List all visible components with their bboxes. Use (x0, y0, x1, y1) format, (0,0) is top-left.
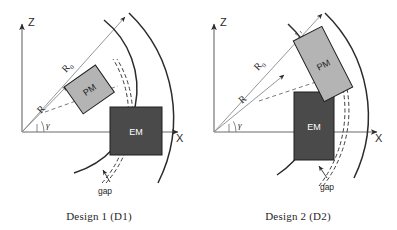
x-axis-label: X (176, 132, 184, 144)
pm-block-d1: PM (64, 65, 114, 114)
radius-label-outer-d1: R0 (59, 60, 75, 76)
em-block-d1: EM (110, 107, 162, 155)
inner-radius-base: R (236, 93, 248, 106)
gamma-angle-arc (42, 122, 45, 133)
gamma-angle-label: γ (238, 120, 242, 130)
gamma-angle-label: γ (46, 120, 50, 130)
gap-callout-d1: gap (98, 170, 112, 196)
figure-container: Z X γ R0 R (0, 0, 397, 230)
radius-label-outer-d2: R0 (251, 58, 267, 74)
inner-radius-ray (214, 75, 284, 132)
gap-leader-line (319, 166, 327, 178)
svg-text:R: R (35, 103, 48, 116)
em-block-d2: EM (294, 92, 334, 160)
svg-text:R0: R0 (251, 58, 267, 74)
inner-radius-base: R (35, 103, 48, 116)
caption-design-1: Design 1 (D1) (0, 210, 198, 222)
panel-design-1: Z X γ R0 R (0, 0, 198, 230)
outer-arc (129, 13, 174, 183)
gamma-angle-arc (234, 122, 237, 133)
svg-text:R: R (236, 93, 248, 106)
gap-label: gap (320, 182, 334, 192)
radius-label-inner-d1: R (35, 103, 48, 116)
z-axis-label: Z (28, 16, 35, 28)
z-axis-label: Z (220, 16, 227, 28)
x-axis-label: X (375, 132, 383, 144)
svg-text:R0: R0 (59, 60, 75, 76)
radius-label-inner-d2: R (236, 93, 248, 106)
gap-label: gap (98, 186, 112, 196)
pm-block-d2: PM (293, 26, 352, 101)
gap-callout-d2: gap (319, 166, 334, 192)
panel-design-2: Z X γ R0 R (199, 0, 397, 230)
caption-design-2: Design 2 (D2) (199, 210, 397, 222)
em-block-label: EM (307, 122, 321, 132)
em-block-label: EM (129, 127, 143, 137)
